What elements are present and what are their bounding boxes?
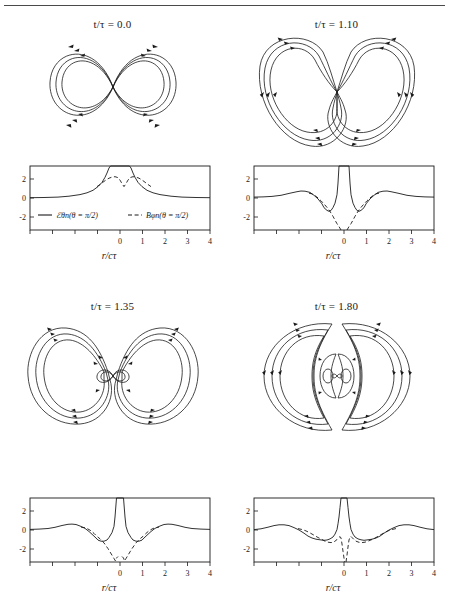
plot-frame: [30, 498, 210, 562]
xtick-1: 1: [364, 237, 368, 246]
xlabel-t0: r/cτ: [0, 250, 218, 261]
ytick-0: 0: [246, 526, 250, 535]
curve-E-theta-n: [254, 166, 434, 211]
xtick-0: 0: [342, 237, 346, 246]
xlabel-text: r/cτ: [326, 582, 341, 593]
xtick-2: 2: [163, 237, 167, 246]
xlabel-text: r/cτ: [102, 582, 117, 593]
plot-legend: ℰθn(θ = π/2) Bφn(θ = π/2): [38, 211, 189, 220]
plot-t110: 2 0 -2 0 1 2 3 4: [224, 160, 449, 260]
panel-title-text: t/τ = 1.35: [91, 300, 135, 312]
plot-frame: [30, 166, 210, 230]
panel-title-text: t/τ = 1.10: [315, 18, 359, 30]
curve-B-phi-n: [298, 529, 396, 562]
plot-t135: 2 0 -2 0 1 2 3 4: [0, 492, 225, 592]
plot-frame: [254, 498, 434, 562]
field-lines-t0: [0, 32, 225, 142]
curve-B-phi-n: [97, 177, 151, 187]
header-rule: [4, 5, 445, 6]
ytick-2: 2: [22, 507, 26, 516]
panel-title-t0: t/τ = 0.0: [0, 18, 225, 30]
curve-B-phi-n: [309, 193, 379, 230]
xlabel-text: r/cτ: [326, 250, 341, 261]
xtick-0: 0: [342, 569, 346, 578]
curve-E-theta-n: [254, 498, 434, 540]
ytick-0: 0: [22, 526, 26, 535]
plot-frame: [254, 166, 434, 230]
plot-svg-t110: 2 0 -2 0 1 2 3 4: [232, 160, 442, 260]
ytick-neg2: -2: [19, 545, 26, 554]
field-lines-t180: [224, 314, 449, 436]
xtick-0: 0: [118, 569, 122, 578]
ytick-2: 2: [22, 175, 26, 184]
panel-t180: t/τ = 1.80: [224, 300, 449, 445]
xtick-1: 1: [140, 237, 144, 246]
xtick-1: 1: [140, 569, 144, 578]
xtick-1: 1: [364, 569, 368, 578]
panel-title-t135: t/τ = 1.35: [0, 300, 225, 312]
ytick-2: 2: [246, 507, 250, 516]
xlabel-t180: r/cτ: [224, 582, 442, 593]
plot-t180: 2 0 -2 0 1 2 3 4: [224, 492, 449, 592]
panel-title-text: t/τ = 0.0: [94, 18, 132, 30]
panel-title-t180: t/τ = 1.80: [224, 300, 449, 312]
xtick-2: 2: [387, 569, 391, 578]
xtick-3: 3: [185, 569, 189, 578]
panel-t0: t/τ = 0.0: [0, 18, 225, 153]
xtick-3: 3: [409, 237, 413, 246]
xlabel-text: r/cτ: [102, 250, 117, 261]
figure-page: t/τ = 0.0: [0, 0, 449, 603]
curve-E-theta-n: [30, 498, 210, 541]
legend-label-B: Bφn(θ = π/2): [146, 211, 189, 220]
xtick-4: 4: [208, 237, 212, 246]
legend-label-E: ℰθn(θ = π/2): [56, 211, 98, 220]
curve-E-theta-n: [30, 166, 210, 198]
xtick-4: 4: [432, 237, 436, 246]
plot-svg-t135: 2 0 -2 0 1 2 3 4: [8, 492, 218, 592]
plot-svg-t0: 2 0 -2 0 1 2 3 4: [8, 160, 218, 260]
field-lines-t110: [224, 32, 449, 152]
panel-title-text: t/τ = 1.80: [315, 300, 359, 312]
ytick-0: 0: [246, 194, 250, 203]
curve-B-phi-n: [81, 527, 159, 561]
ytick-0: 0: [22, 194, 26, 203]
plot-t0: 2 0 -2 0 1 2 3 4: [0, 160, 225, 260]
xtick-3: 3: [185, 237, 189, 246]
plot-svg-t180: 2 0 -2 0 1 2 3 4: [232, 492, 442, 592]
panel-t135: t/τ = 1.35: [0, 300, 225, 445]
ytick-neg2: -2: [243, 213, 250, 222]
field-lines-t135: [0, 314, 225, 434]
xlabel-t135: r/cτ: [0, 582, 218, 593]
panel-t110: t/τ = 1.10: [224, 18, 449, 153]
ytick-neg2: -2: [243, 545, 250, 554]
xlabel-t110: r/cτ: [224, 250, 442, 261]
xtick-2: 2: [163, 569, 167, 578]
ytick-2: 2: [246, 175, 250, 184]
xtick-4: 4: [432, 569, 436, 578]
xtick-2: 2: [387, 237, 391, 246]
panel-title-t110: t/τ = 1.10: [224, 18, 449, 30]
xtick-0: 0: [118, 237, 122, 246]
ytick-neg2: -2: [19, 213, 26, 222]
xtick-4: 4: [208, 569, 212, 578]
xtick-3: 3: [409, 569, 413, 578]
